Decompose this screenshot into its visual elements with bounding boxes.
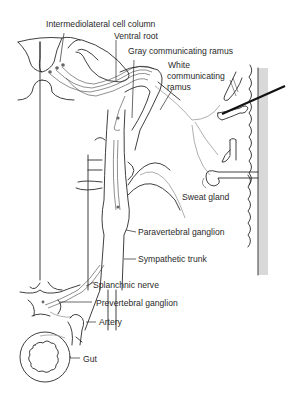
label-splanchnic-nerve: Splanchnic nerve xyxy=(93,280,159,290)
label-white-ramus-line2: communicating xyxy=(167,71,225,81)
diagram-drawing xyxy=(0,0,293,411)
ventral-root xyxy=(68,40,129,82)
spinal-cord xyxy=(18,37,88,293)
skin-vessel xyxy=(222,139,236,163)
label-sweat-gland: Sweat gland xyxy=(182,192,229,202)
label-white-ramus-line3: ramus xyxy=(167,82,191,92)
sympathetic-trunk xyxy=(76,110,185,330)
white-ramus xyxy=(155,82,220,175)
skin-layer xyxy=(248,65,268,275)
label-gray-communicating-ramus: Gray communicating ramus xyxy=(128,46,233,56)
label-ventral-root: Ventral root xyxy=(114,31,158,41)
label-white-ramus-line1: White xyxy=(168,60,190,70)
label-paravertebral-ganglion: Paravertebral ganglion xyxy=(138,227,224,237)
gut-drawing xyxy=(20,332,70,382)
label-sympathetic-trunk: Sympathetic trunk xyxy=(138,254,207,264)
artery-drawing xyxy=(68,314,84,345)
label-prevertebral-ganglion: Prevertebral ganglion xyxy=(96,298,178,308)
label-intermediolateral-cell-column: Intermediolateral cell column xyxy=(46,19,155,29)
sympathetic-pathway-diagram: Intermediolateral cell column Ventral ro… xyxy=(0,0,293,411)
label-gut: Gut xyxy=(83,354,97,364)
label-artery: Artery xyxy=(99,317,122,327)
